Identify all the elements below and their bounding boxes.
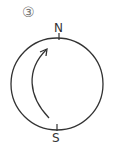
south-label: S <box>52 132 60 144</box>
figure-number: ③ <box>22 5 35 19</box>
horizon-circle <box>11 38 103 130</box>
north-label: N <box>54 22 63 34</box>
motion-arrow-path <box>32 50 49 118</box>
